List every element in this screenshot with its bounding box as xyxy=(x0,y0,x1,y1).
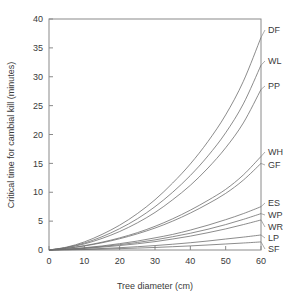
series-label-df: DF xyxy=(268,25,280,35)
series-label-es: ES xyxy=(268,198,280,208)
series-label-pp: PP xyxy=(268,81,280,91)
y-tick-label: 25 xyxy=(33,101,43,111)
series-label-wh: WH xyxy=(268,147,283,157)
y-tick-label: 40 xyxy=(33,14,43,24)
series-label-wr: WR xyxy=(268,222,283,232)
y-tick-label: 15 xyxy=(33,159,43,169)
x-tick-label: 40 xyxy=(185,256,195,266)
series-label-wl: WL xyxy=(268,56,282,66)
y-tick-label: 0 xyxy=(38,245,43,255)
y-axis-title: Critical time for cambial kill (minutes) xyxy=(6,62,16,209)
y-tick-label: 35 xyxy=(33,43,43,53)
chart-svg: 0102030405060 0510152025303540 DFWLPPWHG… xyxy=(0,0,302,297)
x-tick-label: 0 xyxy=(46,256,51,266)
series-label-gf: GF xyxy=(268,160,281,170)
x-tick-label: 50 xyxy=(221,256,231,266)
x-tick-label: 30 xyxy=(150,256,160,266)
series-label-lp: LP xyxy=(268,233,279,243)
y-tick-label: 30 xyxy=(33,72,43,82)
y-tick-label: 20 xyxy=(33,130,43,140)
x-tick-label: 10 xyxy=(79,256,89,266)
y-tick-label: 10 xyxy=(33,187,43,197)
y-tick-label: 5 xyxy=(38,216,43,226)
x-tick-label: 60 xyxy=(256,256,266,266)
x-tick-label: 20 xyxy=(115,256,125,266)
chart-background xyxy=(0,0,302,297)
x-axis-title: Tree diameter (cm) xyxy=(117,281,193,291)
series-label-sf: SF xyxy=(268,244,280,254)
chart-figure: 0102030405060 0510152025303540 DFWLPPWHG… xyxy=(0,0,302,297)
series-label-wp: WP xyxy=(268,210,283,220)
